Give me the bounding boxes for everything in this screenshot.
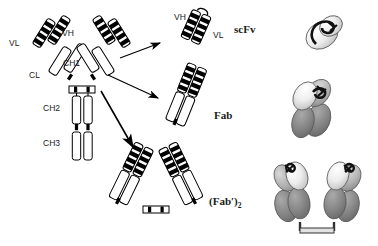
- label-fab2-prime: ′): [231, 195, 238, 207]
- fab-3d-model: [288, 74, 336, 140]
- fab-schematic: [164, 62, 207, 128]
- label-fab: Fab: [214, 110, 232, 121]
- scfv-schematic: [181, 5, 214, 45]
- label-scfv-vh: VH: [174, 13, 186, 22]
- label-fab2: (Fab′)2: [209, 196, 242, 210]
- label-scfv-vl: VL: [213, 31, 223, 40]
- label-cl: CL: [29, 71, 40, 80]
- fab2-3d-model: [270, 159, 366, 233]
- label-fab2-main: (Fab: [209, 195, 231, 207]
- arrow-to-fab: [108, 75, 158, 98]
- fab2-schematic: [107, 142, 204, 213]
- label-vh: VH: [62, 29, 74, 38]
- label-ch1: CH1: [63, 59, 80, 68]
- label-scfv: scFv: [234, 24, 255, 35]
- label-fab2-subscript: 2: [238, 201, 242, 210]
- scfv-3d-model: [301, 12, 347, 55]
- label-ch3: CH3: [43, 139, 60, 148]
- arrow-to-fab2: [101, 91, 133, 147]
- diagram-svg: [0, 0, 378, 246]
- label-ch2: CH2: [43, 104, 60, 113]
- figure-canvas: VL VH CL CH1 CH2 CH3 VH VL scFv Fab (Fab…: [0, 0, 378, 246]
- label-vl: VL: [9, 39, 19, 48]
